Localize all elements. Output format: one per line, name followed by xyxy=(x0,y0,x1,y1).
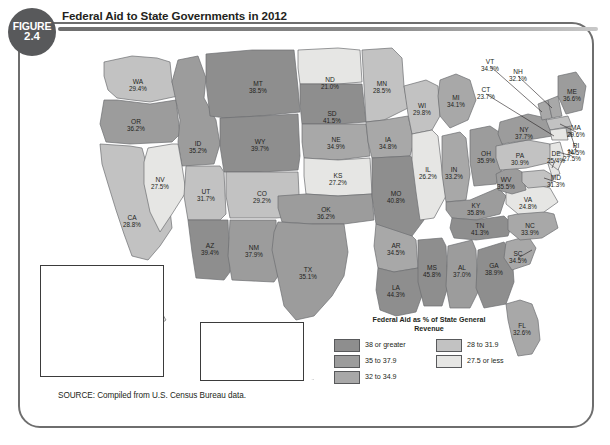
legend-swatch xyxy=(334,355,360,368)
state-label-vt: VT34.9% xyxy=(481,58,499,72)
legend-label: 38 or greater xyxy=(365,341,406,349)
state-value: 24.8% xyxy=(519,203,537,210)
legend-title-line2: Revenue xyxy=(334,325,524,334)
legend-label: 27.5 or less xyxy=(467,357,504,365)
state-code: NM xyxy=(249,244,259,251)
legend-swatch xyxy=(436,355,462,368)
state-code: GA xyxy=(489,262,499,269)
state-code: KY xyxy=(472,202,481,209)
state-code: ME xyxy=(567,88,577,95)
state-value: 29.8% xyxy=(413,109,431,116)
state-value: 32.1% xyxy=(509,75,527,82)
state-value: 35.5% xyxy=(497,183,515,190)
state-code: ID xyxy=(195,140,202,147)
state-value: 39.7% xyxy=(251,145,269,152)
state-code: NH xyxy=(513,68,523,75)
state-value: 29.2% xyxy=(253,197,271,204)
legend-title-line1: Federal Aid as % of State General xyxy=(334,316,524,325)
state-code: MD xyxy=(551,174,561,181)
legend-item: 35 to 37.9 xyxy=(334,355,426,368)
state-value: 21.0% xyxy=(321,83,339,90)
alaska-inset xyxy=(40,265,164,377)
state-code: IN xyxy=(451,166,458,173)
figure-title: Federal Aid to State Governments in 2012 xyxy=(62,9,287,22)
state-label-nh: NH32.1% xyxy=(509,68,527,82)
state-value: 34.1% xyxy=(447,101,465,108)
state-code: NV xyxy=(155,176,165,183)
state-value: 37.9% xyxy=(245,251,263,258)
state-code: VT xyxy=(486,58,494,65)
state-value: 37.0% xyxy=(453,271,471,278)
source-note: SOURCE: Compiled from U.S. Census Bureau… xyxy=(58,391,246,400)
state-code: DE xyxy=(551,150,561,157)
state-value: 35.2% xyxy=(189,147,207,154)
map-legend: Federal Aid as % of State General Revenu… xyxy=(334,316,524,384)
state-value: 36.6% xyxy=(563,95,581,102)
state-value: 34.5% xyxy=(509,257,527,264)
state-code: CA xyxy=(127,214,137,221)
state-code: MN xyxy=(377,80,387,87)
state-code: AR xyxy=(391,242,400,249)
state-value: 27.2% xyxy=(329,179,347,186)
state-value: 34.8% xyxy=(379,143,397,150)
state-value: 35.9% xyxy=(477,157,495,164)
state-value: 23.7% xyxy=(477,93,495,100)
state-value: 34.5% xyxy=(567,149,585,156)
state-code: WA xyxy=(133,78,144,85)
state-code: MI xyxy=(452,94,459,101)
state-value: 38.9% xyxy=(485,269,503,276)
state-value: 36.2% xyxy=(127,125,145,132)
state-value: 35.1% xyxy=(299,273,317,280)
legend-swatch xyxy=(334,339,360,352)
hawaii-inset xyxy=(200,322,304,381)
legend-swatch xyxy=(334,371,360,384)
state-value: 40.8% xyxy=(387,197,405,204)
legend-item: 32 to 34.9 xyxy=(334,371,426,384)
state-label-ri: RI34.5% xyxy=(567,142,585,156)
state-value: 34.9% xyxy=(327,143,345,150)
state-code: MT xyxy=(253,80,263,87)
state-code: VA xyxy=(524,196,533,203)
state-code: MA xyxy=(571,124,581,131)
state-value: 35.8% xyxy=(467,209,485,216)
state-value: 39.4% xyxy=(201,249,219,256)
state-ct xyxy=(550,128,568,140)
state-value: 36.2% xyxy=(317,213,335,220)
figure-badge: FIGURE 2.4 xyxy=(8,8,56,56)
title-rule xyxy=(58,27,598,31)
state-value: 38.5% xyxy=(249,87,267,94)
state-code: PA xyxy=(516,152,525,159)
legend-column-right: 28 to 31.927.5 or less xyxy=(436,339,524,384)
legend-item: 27.5 or less xyxy=(436,355,524,368)
state-code: SD xyxy=(327,110,336,117)
state-code: WI xyxy=(418,102,426,109)
state-value: 45.8% xyxy=(423,271,441,278)
figure-page: FIGURE 2.4 Federal Aid to State Governme… xyxy=(0,0,610,445)
legend-column-left: 38 or greater35 to 37.932 to 34.9 xyxy=(334,339,426,384)
state-value: 30.9% xyxy=(511,159,529,166)
state-code: MO xyxy=(391,190,402,197)
state-code: SC xyxy=(513,250,522,257)
legend-title: Federal Aid as % of State General Revenu… xyxy=(334,316,524,335)
state-code: IA xyxy=(385,136,392,143)
state-code: OH xyxy=(481,150,491,157)
state-code: NE xyxy=(331,136,341,143)
state-code: NY xyxy=(519,126,529,133)
state-code: LA xyxy=(392,284,401,291)
state-code: TN xyxy=(476,222,485,229)
state-value: 27.5% xyxy=(563,155,581,162)
state-value: 44.3% xyxy=(387,291,405,298)
state-value: 28.8% xyxy=(123,221,141,228)
state-value: 31.3% xyxy=(547,181,565,188)
state-code: WY xyxy=(255,138,266,145)
state-code: AL xyxy=(458,264,466,271)
state-label-ct: CT23.7% xyxy=(477,86,495,100)
state-value: 33.2% xyxy=(445,173,463,180)
state-value: 27.5% xyxy=(151,183,169,190)
state-code: ND xyxy=(325,76,335,83)
legend-item: 38 or greater xyxy=(334,339,426,352)
state-value: 34.5% xyxy=(387,249,405,256)
state-value: 29.4% xyxy=(129,85,147,92)
state-code: OK xyxy=(321,206,331,213)
state-value: 34.9% xyxy=(481,65,499,72)
